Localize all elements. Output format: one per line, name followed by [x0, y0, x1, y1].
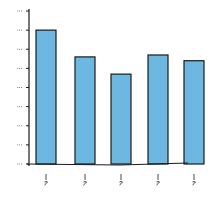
x-category-label — [193, 174, 196, 185]
x-category-label — [45, 174, 48, 185]
bar — [36, 30, 56, 164]
y-axis — [17, 9, 29, 166]
bar-chart — [0, 0, 219, 197]
bar — [184, 61, 204, 164]
bar — [148, 55, 168, 164]
x-category-label — [157, 174, 160, 185]
x-category-label — [120, 174, 123, 185]
bar — [75, 57, 95, 164]
x-axis — [27, 163, 196, 185]
bar — [111, 74, 131, 164]
x-category-label — [84, 174, 87, 185]
bars — [36, 30, 204, 164]
